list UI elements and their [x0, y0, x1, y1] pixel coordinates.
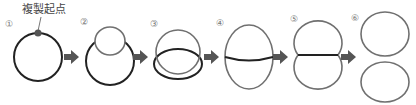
circular-dna [14, 33, 62, 81]
daughter-circle-2 [361, 62, 409, 102]
origin-dot [35, 30, 42, 37]
step-number-4: ④ [216, 18, 224, 28]
parent-strand [225, 57, 273, 61]
origin-leader-line [38, 17, 41, 31]
step-4: ④ [216, 18, 273, 89]
arrow-icon [204, 50, 219, 64]
step-1: ① 複製起点 [5, 2, 66, 81]
arrow-icon [133, 50, 148, 64]
step-number-5: ⑤ [290, 14, 298, 24]
replicated-circle [225, 25, 273, 89]
arrow-icon [64, 50, 79, 64]
daughter-circle-top [294, 21, 342, 55]
step-2: ② [80, 17, 134, 85]
step-number-3: ③ [150, 19, 158, 29]
daughter-circle-1 [361, 12, 409, 56]
replication-bubble [95, 27, 125, 55]
step-number-6: ⑥ [351, 13, 359, 23]
step-5: ⑤ [290, 14, 342, 89]
step-3: ③ [150, 19, 202, 79]
replication-diagram: ① 複製起点 ② ③ ④ ⑤ ⑥ [0, 0, 416, 105]
step-number-1: ① [5, 19, 13, 29]
replication-bubble [156, 30, 200, 74]
origin-label: 複製起点 [22, 2, 66, 16]
step-number-2: ② [80, 17, 88, 27]
arrow-icon [341, 50, 356, 64]
daughter-circle-bottom [294, 55, 342, 89]
arrow-icon [273, 50, 288, 64]
step-6: ⑥ [351, 12, 409, 102]
